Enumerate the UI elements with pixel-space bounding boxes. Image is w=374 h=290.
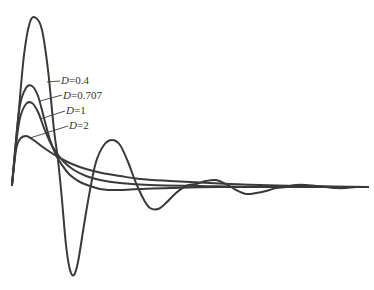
label-d-0-4: D=0.4 [60, 74, 89, 86]
label-d-0-707: D=0.707 [62, 89, 102, 101]
curve-d-0-4 [12, 17, 368, 275]
step-response-chart: D=0.4 D=0.707 D=1 D=2 [0, 0, 374, 290]
label-d-1: D=1 [65, 104, 86, 116]
curve-d-2 [12, 136, 368, 187]
curves-group [12, 17, 368, 275]
label-d-2: D=2 [68, 119, 89, 131]
